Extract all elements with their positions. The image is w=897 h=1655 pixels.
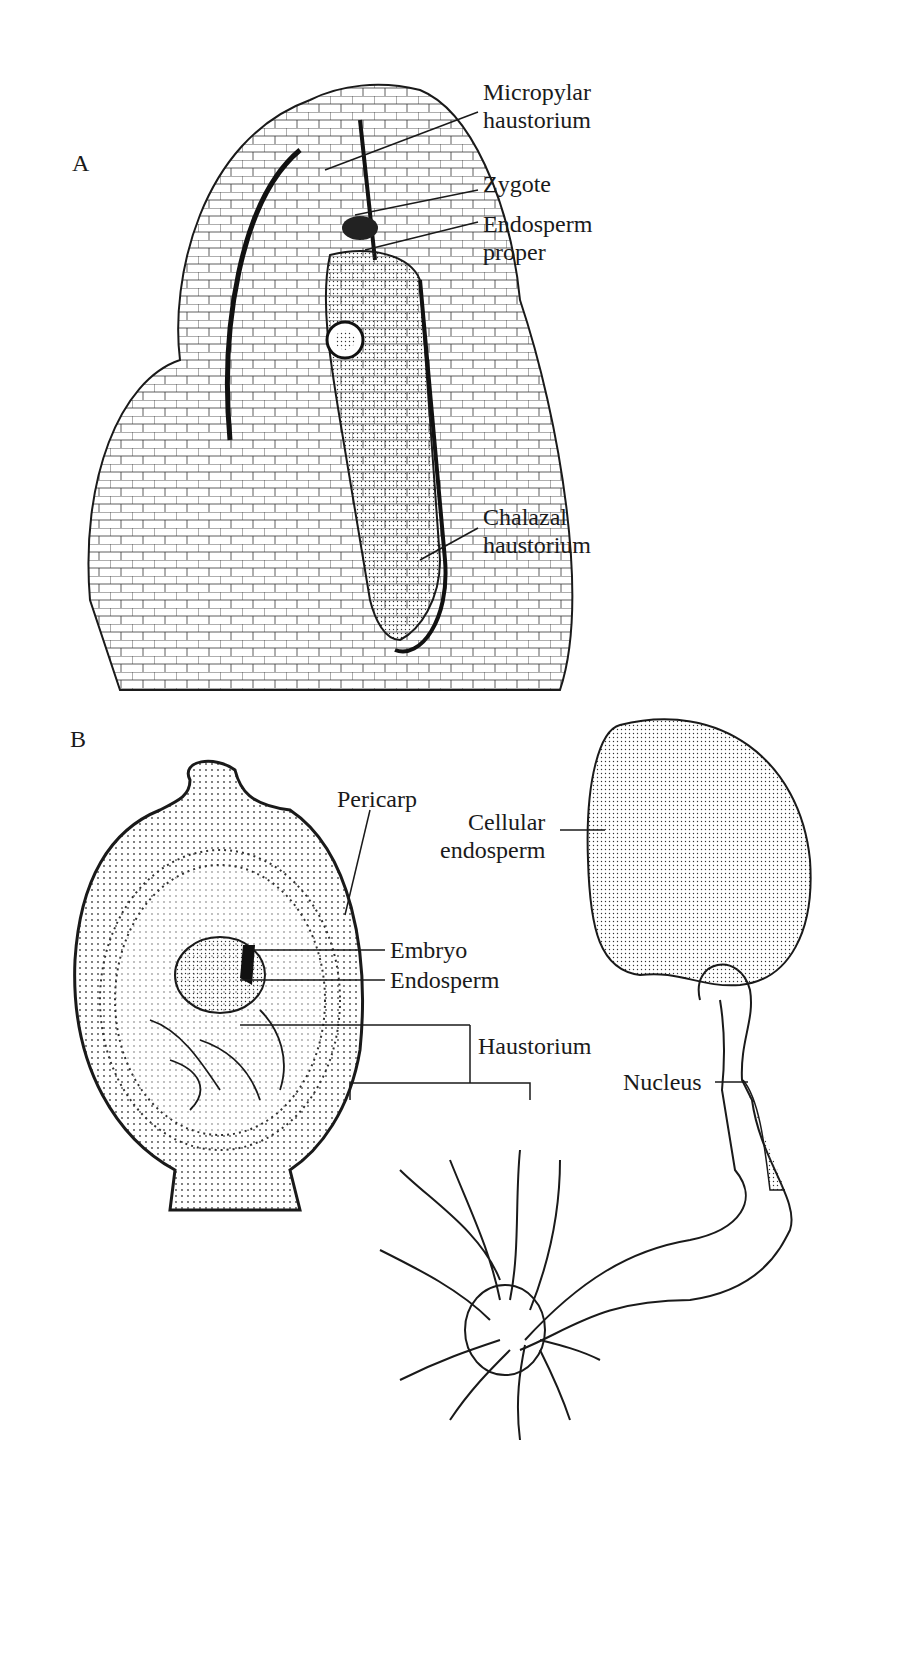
label-chalazal-haustorium: Chalazal haustorium	[483, 503, 591, 559]
label-cellular-endosperm: Cellular endosperm	[440, 808, 545, 864]
label-micropylar-haustorium: Micropylar haustorium	[483, 78, 591, 134]
label-pericarp: Pericarp	[337, 785, 417, 813]
label-endosperm-proper: Endosperm proper	[483, 210, 592, 266]
label-embryo: Embryo	[390, 936, 467, 964]
label-endosperm: Endosperm	[390, 966, 499, 994]
fruit-section-drawing	[75, 761, 363, 1210]
label-haustorium: Haustorium	[478, 1032, 591, 1060]
panel-label-a: A	[72, 150, 89, 177]
panel-label-b: B	[70, 726, 86, 753]
label-zygote: Zygote	[483, 170, 551, 198]
label-nucleus: Nucleus	[623, 1068, 702, 1096]
